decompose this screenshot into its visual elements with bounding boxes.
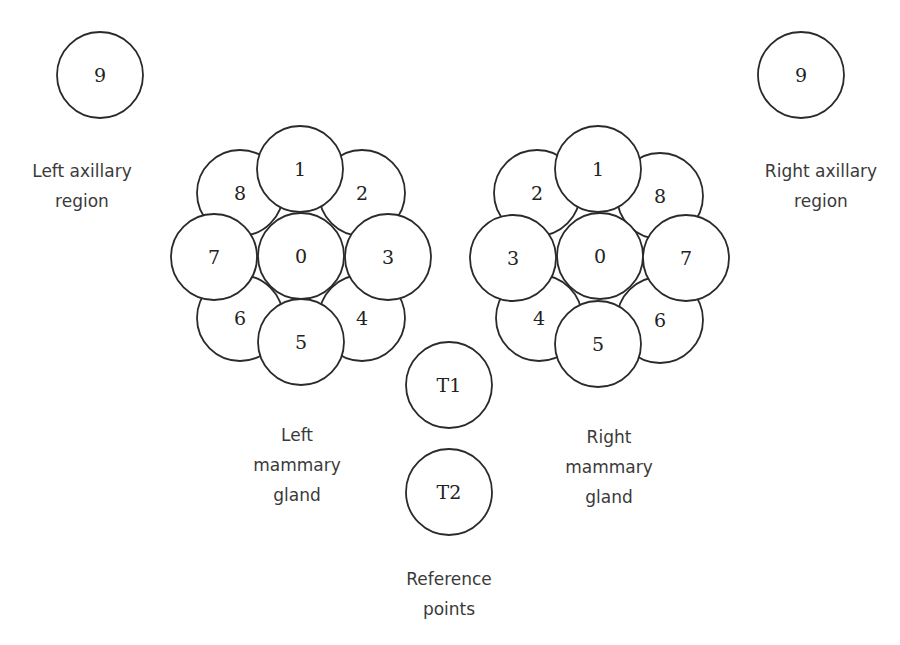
point-label: 2 — [531, 182, 543, 204]
right-gland-point-0: 0 — [557, 213, 643, 299]
left-gland-point-3: 3 — [345, 214, 431, 300]
point-label: 4 — [356, 307, 368, 329]
point-label: 1 — [294, 158, 306, 180]
point-label: 7 — [680, 247, 692, 269]
right-gland-caption-line2: mammary — [565, 457, 653, 477]
right-gland-point-1: 1 — [555, 126, 641, 212]
left-mammary-gland-points: 824601357 — [171, 126, 431, 385]
left-axillary-point: 9 — [57, 32, 143, 118]
point-label: T2 — [437, 481, 462, 503]
reference-caption-line2: points — [423, 599, 475, 619]
right-axillary-point-9: 9 — [758, 32, 844, 118]
point-label: 4 — [533, 307, 545, 329]
mammary-thermography-diagram: 9 9 824601357 286401357 T1T2 Left axilla… — [0, 0, 900, 645]
right-axillary-caption-line2: region — [794, 191, 848, 211]
point-label: 3 — [507, 247, 519, 269]
point-label: 5 — [592, 333, 604, 355]
point-label: 8 — [234, 182, 246, 204]
left-gland-caption-line2: mammary — [253, 455, 341, 475]
point-label: 5 — [295, 331, 307, 353]
point-label: T1 — [437, 374, 462, 396]
right-axillary-caption-line1: Right axillary — [765, 161, 877, 181]
reference-points: T1T2 — [406, 342, 492, 535]
right-mammary-gland-points: 286401357 — [470, 126, 729, 387]
point-label: 6 — [654, 309, 666, 331]
left-axillary-caption-line1: Left axillary — [32, 161, 132, 181]
point-label: 3 — [382, 246, 394, 268]
point-label: 9 — [795, 64, 807, 86]
point-label: 0 — [594, 245, 606, 267]
left-gland-caption-line3: gland — [273, 485, 321, 505]
right-axillary-point: 9 — [758, 32, 844, 118]
reference-point-t1: T1 — [406, 342, 492, 428]
reference-caption-line1: Reference — [406, 569, 492, 589]
left-gland-point-1: 1 — [257, 126, 343, 212]
left-gland-point-5: 5 — [258, 299, 344, 385]
right-gland-caption-line3: gland — [585, 487, 633, 507]
point-label: 0 — [295, 245, 307, 267]
right-gland-point-3: 3 — [470, 215, 556, 301]
left-gland-caption-line1: Left — [281, 425, 313, 445]
right-gland-point-7: 7 — [643, 215, 729, 301]
left-gland-point-7: 7 — [171, 214, 257, 300]
point-label: 8 — [654, 185, 666, 207]
point-label: 9 — [94, 64, 106, 86]
left-gland-point-0: 0 — [258, 213, 344, 299]
right-gland-caption-line1: Right — [587, 427, 632, 447]
point-label: 6 — [234, 307, 246, 329]
point-label: 1 — [592, 158, 604, 180]
point-label: 2 — [356, 182, 368, 204]
left-axillary-point-9: 9 — [57, 32, 143, 118]
point-label: 7 — [208, 246, 220, 268]
right-gland-point-5: 5 — [555, 301, 641, 387]
left-axillary-caption-line2: region — [55, 191, 109, 211]
reference-point-t2: T2 — [406, 449, 492, 535]
